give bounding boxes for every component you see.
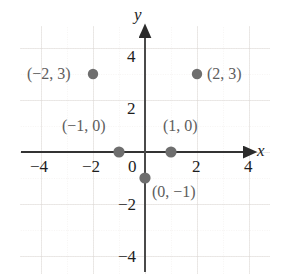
data-point-1-0: [165, 146, 176, 157]
y-tick-label-neg2: −2: [118, 196, 136, 213]
plot-canvas: [0, 0, 281, 274]
x-tick-label-neg2: −2: [82, 158, 100, 175]
x-tick-label-2: 2: [192, 158, 201, 175]
data-point-neg2-3: [88, 69, 98, 79]
point-label-0-neg1: (0, −1): [152, 184, 196, 200]
data-point-0-neg1: [139, 172, 150, 183]
coordinate-plane-figure: −4 −2 0 2 4 4 2 −2 −4 y x (−2, 3) (2, 3)…: [0, 0, 281, 274]
data-point-2-3: [192, 69, 202, 79]
point-label-1-0: (1, 0): [163, 118, 198, 134]
y-tick-label-4: 4: [127, 48, 136, 65]
point-label-neg2-3: (−2, 3): [27, 66, 71, 82]
x-tick-label-4: 4: [244, 158, 253, 175]
point-label-2-3: (2, 3): [207, 66, 242, 82]
y-tick-label-neg4: −4: [118, 248, 136, 265]
point-label-neg1-0: (−1, 0): [62, 118, 106, 134]
y-axis-label: y: [134, 6, 142, 23]
x-tick-label-neg4: −4: [30, 158, 48, 175]
y-tick-label-2: 2: [127, 100, 136, 117]
x-tick-label-zero: 0: [128, 158, 137, 175]
x-axis-label: x: [257, 142, 265, 159]
data-point-neg1-0: [113, 146, 124, 157]
